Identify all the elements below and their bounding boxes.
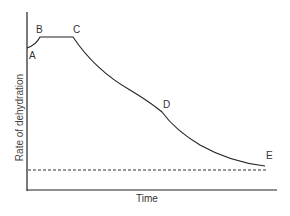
point-label-a: A bbox=[29, 50, 36, 61]
point-label-c: C bbox=[73, 24, 80, 35]
rate-curve bbox=[27, 37, 265, 166]
point-label-d: D bbox=[163, 99, 170, 110]
x-axis-label: Time bbox=[136, 193, 158, 204]
point-label-b: B bbox=[36, 24, 43, 35]
point-label-e: E bbox=[266, 150, 273, 161]
drying-rate-diagram bbox=[0, 0, 290, 216]
y-axis-label: Rate of dehydration bbox=[14, 63, 25, 173]
